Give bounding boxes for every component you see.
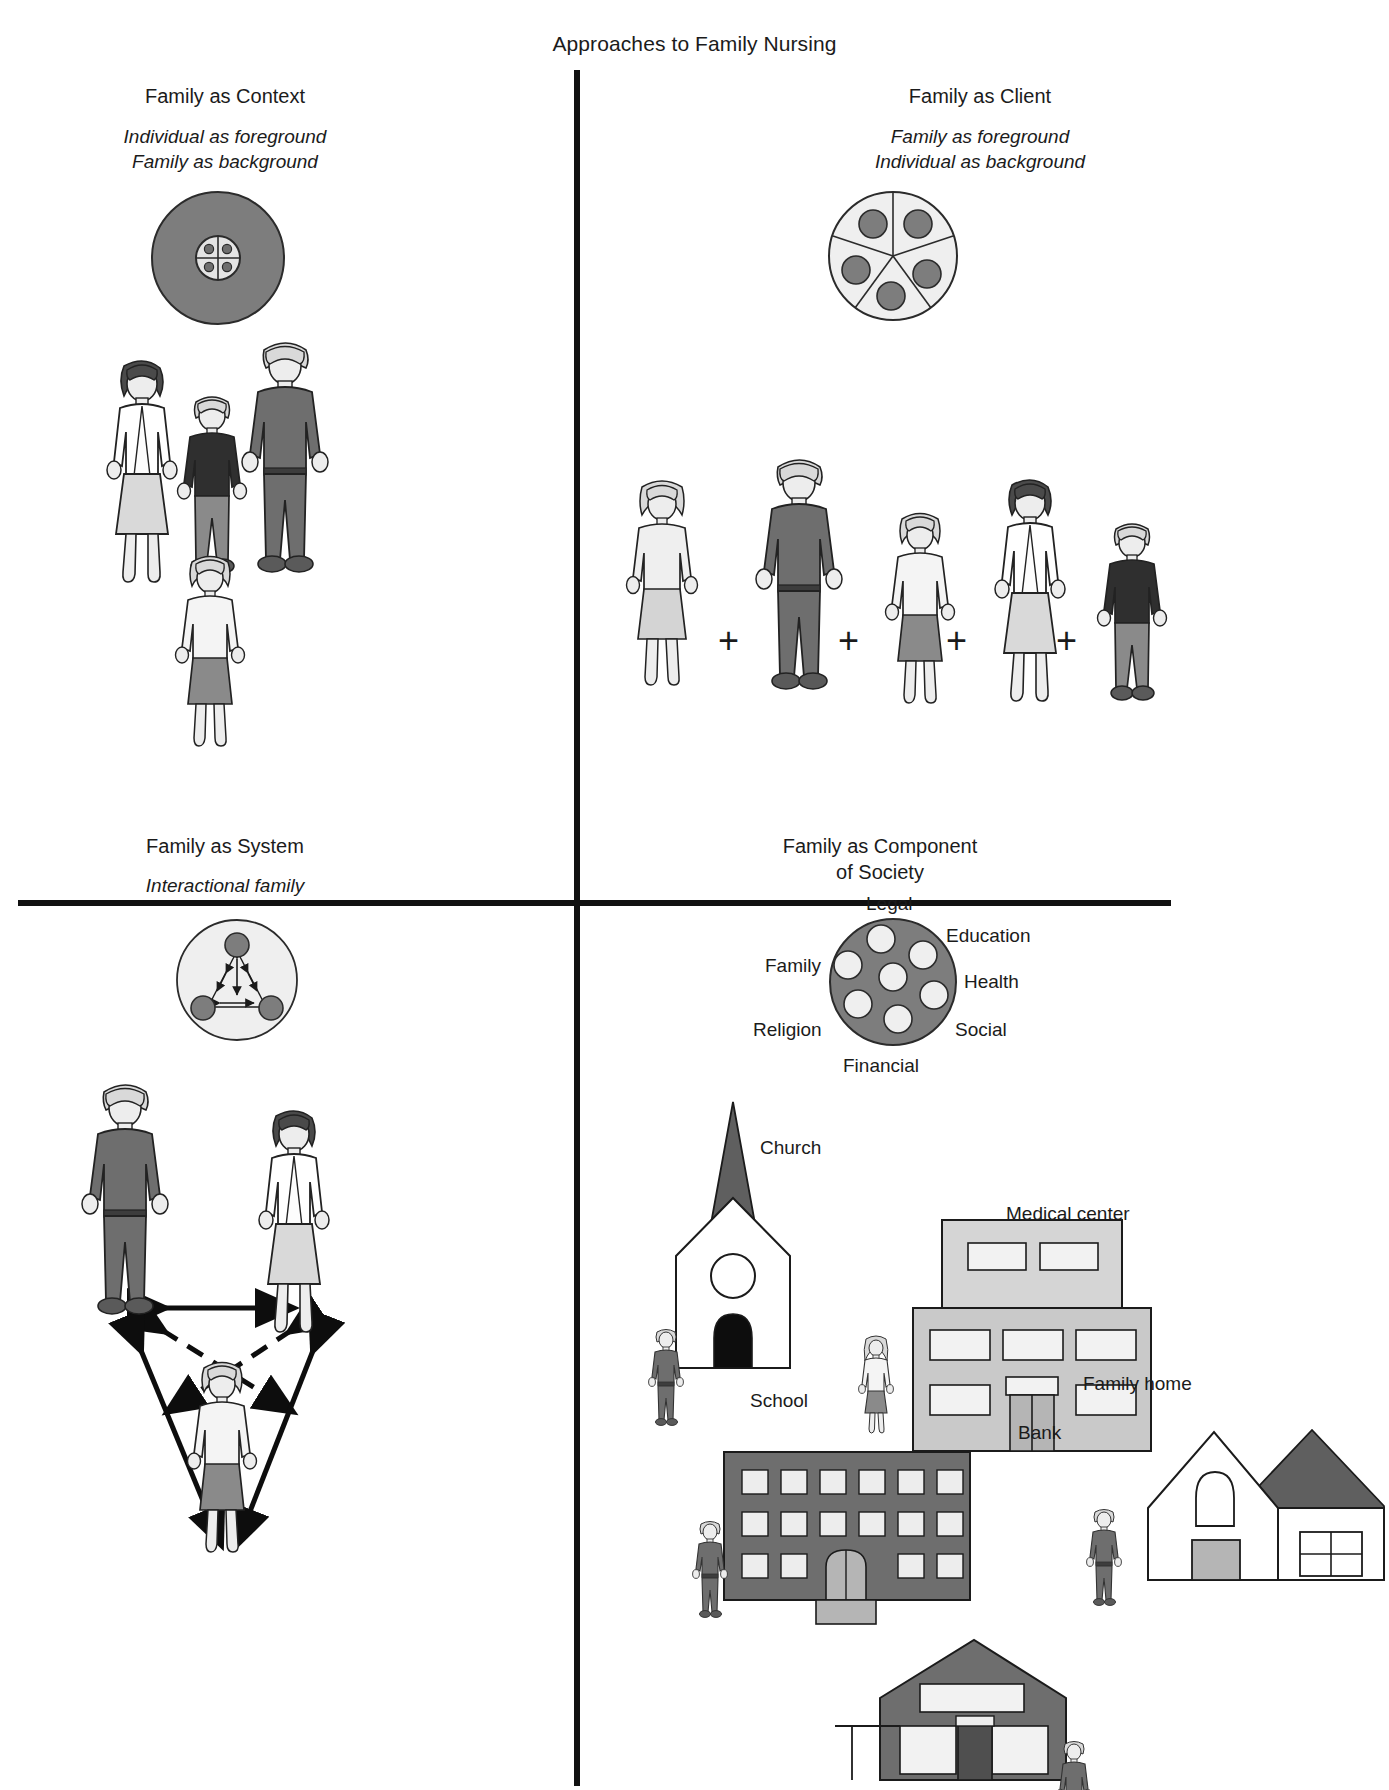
quadrant-title-family-as-context: Family as Context	[0, 83, 455, 109]
plus-operator-4: +	[1056, 620, 1077, 662]
person-figure-mother	[259, 1111, 329, 1332]
person-figure-child-boy	[1098, 524, 1167, 700]
quadrant-title-society-line-1: Family as Component	[650, 833, 1110, 859]
vertical-divider-bottom	[574, 906, 580, 1786]
person-figure-father	[82, 1085, 168, 1314]
person-figure-father	[242, 343, 328, 572]
person-figure-child-boy	[178, 397, 247, 573]
plus-operator-3: +	[946, 620, 967, 662]
society-label-financial: Financial	[843, 1055, 919, 1077]
person-figure-child-girl	[176, 557, 245, 747]
person-figure-girl	[627, 481, 698, 685]
quadrant-title-family-as-client: Family as Client	[750, 83, 1210, 109]
quadrant-subtitle-line-1: Individual as foreground	[0, 124, 455, 149]
building-label-family-home: Family home	[1083, 1373, 1192, 1395]
quadrant-title-family-as-system: Family as System	[0, 833, 455, 859]
quadrant-subtitle-line-2: Family as background	[0, 149, 455, 174]
family-as-context-circle-diagram	[148, 188, 288, 328]
family-as-context-people-group	[70, 330, 390, 780]
figure-canvas: Approaches to Family Nursing Family as C…	[0, 0, 1389, 1790]
society-label-health: Health	[964, 971, 1019, 993]
quadrant-title-society-line-2: of Society	[650, 859, 1110, 885]
family-as-system-circle-diagram	[172, 915, 302, 1045]
family-as-client-people-row	[610, 455, 1185, 720]
society-label-education: Education	[946, 925, 1031, 947]
person-near-medical-center	[859, 1336, 894, 1433]
plus-operator-2: +	[838, 620, 859, 662]
person-figure-mother	[107, 361, 177, 582]
community-scene	[600, 1080, 1389, 1780]
building-bank	[835, 1640, 1066, 1780]
building-family-home	[1148, 1430, 1384, 1580]
person-figure-father	[756, 460, 842, 689]
person-near-school	[693, 1522, 728, 1618]
quadrant-client-subtitle-line-1: Family as foreground	[750, 124, 1210, 149]
family-as-system-people-group	[52, 1080, 482, 1600]
horizontal-divider	[18, 900, 1171, 906]
society-label-legal: Legal	[866, 893, 913, 915]
building-label-medical-center: Medical center	[1006, 1203, 1130, 1225]
building-school	[724, 1452, 970, 1624]
plus-operator-1: +	[718, 620, 739, 662]
building-medical-center	[913, 1220, 1151, 1451]
figure-title: Approaches to Family Nursing	[0, 32, 1389, 56]
person-near-family-home	[1087, 1510, 1122, 1606]
society-label-family: Family	[765, 955, 821, 977]
person-figure-mother	[995, 480, 1065, 701]
vertical-divider-top	[574, 70, 580, 905]
society-label-religion: Religion	[753, 1019, 822, 1041]
family-as-client-circle-diagram	[823, 186, 963, 326]
building-label-school: School	[750, 1390, 808, 1412]
building-label-church: Church	[760, 1137, 821, 1159]
quadrant-system-subtitle: Interactional family	[0, 873, 455, 898]
building-label-bank: Bank	[1018, 1422, 1061, 1444]
society-label-social: Social	[955, 1019, 1007, 1041]
society-circle-diagram	[826, 915, 960, 1049]
person-figure-child-girl	[886, 514, 955, 704]
quadrant-client-subtitle-line-2: Individual as background	[750, 149, 1210, 174]
